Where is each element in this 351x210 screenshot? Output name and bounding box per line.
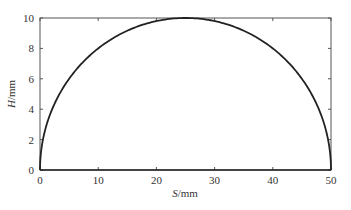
x-tick-label: 10 [93,174,105,186]
x-axis-ticks: 01020304050 [37,18,337,186]
y-tick-label: 6 [29,73,35,85]
chart-canvas: 01020304050 0246810 S/mm H/mm [0,0,351,210]
y-tick-label: 10 [23,12,35,24]
y-tick-label: 8 [29,42,35,54]
x-tick-label: 50 [326,174,338,186]
data-line [40,18,331,170]
y-axis-label: H/mm [5,79,17,109]
x-tick-label: 40 [267,174,279,186]
y-tick-label: 2 [29,134,35,146]
plot-frame [40,18,331,170]
x-tick-label: 30 [209,174,221,186]
x-tick-label: 0 [37,174,43,186]
y-tick-label: 4 [29,103,35,115]
y-axis-ticks: 0246810 [23,12,331,176]
x-tick-label: 20 [151,174,163,186]
y-tick-label: 0 [29,164,35,176]
x-axis-label: S/mm [172,187,198,199]
